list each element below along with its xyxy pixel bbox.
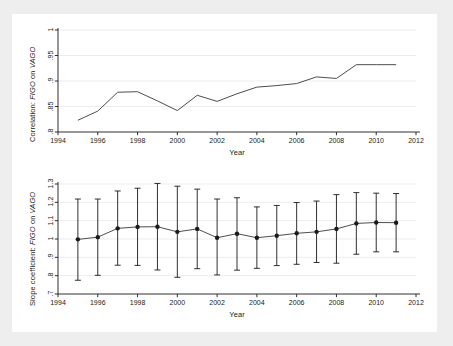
y-tick-label: 1 bbox=[47, 233, 54, 245]
data-point-marker bbox=[374, 220, 378, 224]
x-tick-label: 2004 bbox=[249, 299, 265, 306]
data-point-marker bbox=[155, 225, 159, 229]
x-tick-label: 1998 bbox=[130, 299, 146, 306]
y-tick-label: .9 bbox=[47, 75, 54, 87]
data-point-marker bbox=[195, 227, 199, 231]
data-point-marker bbox=[334, 227, 338, 231]
x-tick-label: 1996 bbox=[90, 299, 106, 306]
x-tick-label: 2000 bbox=[170, 137, 186, 144]
data-point-marker bbox=[175, 230, 179, 234]
data-point-marker bbox=[96, 235, 100, 239]
x-tick-label: 2008 bbox=[329, 137, 345, 144]
slope-chart: Slope coefficient: FIGO on VAGO Year .7.… bbox=[12, 170, 437, 332]
x-tick-label: 2012 bbox=[408, 299, 424, 306]
data-point-marker bbox=[275, 234, 279, 238]
x-tick-label: 1994 bbox=[50, 137, 66, 144]
data-point-marker bbox=[135, 225, 139, 229]
data-point-marker bbox=[115, 226, 119, 230]
y-tick-label: 1.3 bbox=[47, 178, 54, 190]
data-point-marker bbox=[76, 237, 80, 241]
data-point-marker bbox=[394, 220, 398, 224]
x-tick-label: 2010 bbox=[368, 299, 384, 306]
x-tick-label: 2002 bbox=[209, 137, 225, 144]
slope-plot-area bbox=[12, 170, 437, 332]
data-point-marker bbox=[215, 236, 219, 240]
x-tick-label: 2000 bbox=[170, 299, 186, 306]
x-tick-label: 2002 bbox=[209, 299, 225, 306]
data-point-marker bbox=[354, 221, 358, 225]
y-tick-label: 1.1 bbox=[47, 214, 54, 226]
y-tick-label: .85 bbox=[47, 100, 54, 112]
x-tick-label: 2008 bbox=[329, 299, 345, 306]
x-tick-label: 1998 bbox=[130, 137, 146, 144]
x-tick-label: 1994 bbox=[50, 299, 66, 306]
y-tick-label: .9 bbox=[47, 251, 54, 263]
y-tick-label: .95 bbox=[47, 49, 54, 61]
x-tick-label: 1996 bbox=[90, 137, 106, 144]
y-tick-label: .8 bbox=[47, 269, 54, 281]
x-tick-label: 2004 bbox=[249, 137, 265, 144]
figure-root: Correlation: FIGO on VAGO Year .8.85.9.9… bbox=[0, 0, 453, 346]
data-point-marker bbox=[314, 230, 318, 234]
x-tick-label: 2012 bbox=[408, 137, 424, 144]
y-tick-label: .8 bbox=[47, 126, 54, 138]
y-tick-label: 1 bbox=[47, 24, 54, 36]
y-tick-label: .7 bbox=[47, 288, 54, 300]
figure-panel: Correlation: FIGO on VAGO Year .8.85.9.9… bbox=[12, 14, 437, 332]
data-point-marker bbox=[294, 231, 298, 235]
x-tick-label: 2010 bbox=[368, 137, 384, 144]
x-tick-label: 2006 bbox=[289, 137, 305, 144]
data-point-marker bbox=[255, 236, 259, 240]
x-tick-label: 2006 bbox=[289, 299, 305, 306]
correlation-chart: Correlation: FIGO on VAGO Year .8.85.9.9… bbox=[12, 14, 437, 166]
y-tick-label: 1.2 bbox=[47, 196, 54, 208]
data-point-marker bbox=[235, 231, 239, 235]
